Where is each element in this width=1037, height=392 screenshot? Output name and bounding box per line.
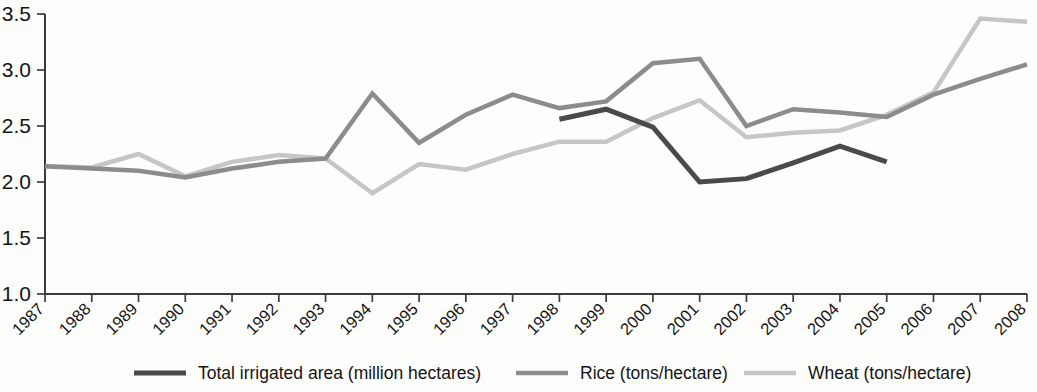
chart-canvas: 1.01.52.02.53.03.5 198719881989199019911… — [0, 0, 1037, 392]
y-axis-tick-label: 1.0 — [2, 282, 31, 305]
x-axis-tick-label: 2004 — [803, 299, 842, 338]
x-axis-tick-label: 1991 — [195, 299, 234, 338]
x-axis-tick-label: 1998 — [523, 299, 562, 338]
line-chart: 1.01.52.02.53.03.5 198719881989199019911… — [0, 0, 1037, 392]
x-axis-tick-label: 2000 — [616, 299, 655, 338]
x-axis-tick-label: 2008 — [990, 299, 1029, 338]
x-axis-tick-label: 1990 — [149, 299, 188, 338]
x-axis-tick-label: 1995 — [383, 299, 422, 338]
series-line-wheat — [45, 18, 1027, 193]
x-axis-tick-label: 2006 — [897, 299, 936, 338]
y-axis: 1.01.52.02.53.03.5 — [2, 2, 45, 305]
x-axis-tick-label: 2001 — [663, 299, 702, 338]
y-axis-tick-label: 3.5 — [2, 2, 31, 25]
x-axis-tick-label: 1996 — [429, 299, 468, 338]
chart-legend: Total irrigated area (million hectares)R… — [134, 363, 971, 383]
x-axis-tick-label: 1997 — [476, 299, 515, 338]
legend-label-rice: Rice (tons/hectare) — [580, 363, 728, 383]
x-axis-tick-label: 1987 — [8, 299, 47, 338]
legend-label-wheat: Wheat (tons/hectare) — [808, 363, 971, 383]
x-axis-tick-label: 1989 — [102, 299, 141, 338]
y-axis-tick-label: 2.5 — [2, 114, 31, 137]
legend-label-total-irrigated-area: Total irrigated area (million hectares) — [198, 363, 481, 383]
x-axis-tick-label: 2007 — [944, 299, 983, 338]
x-axis-tick-label: 1993 — [289, 299, 328, 338]
x-axis-tick-label: 2002 — [710, 299, 749, 338]
x-axis: 1987198819891990199119921993199419951996… — [8, 294, 1029, 338]
x-axis-tick-label: 2005 — [850, 299, 889, 338]
y-axis-tick-label: 2.0 — [2, 170, 31, 193]
x-axis-tick-label: 1988 — [55, 299, 94, 338]
y-axis-tick-label: 3.0 — [2, 58, 31, 81]
x-axis-tick-label: 1994 — [336, 299, 375, 338]
x-axis-tick-label: 1992 — [242, 299, 281, 338]
series-layer — [45, 18, 1027, 193]
x-axis-tick-label: 2003 — [757, 299, 796, 338]
y-axis-tick-label: 1.5 — [2, 226, 31, 249]
x-axis-tick-label: 1999 — [570, 299, 609, 338]
